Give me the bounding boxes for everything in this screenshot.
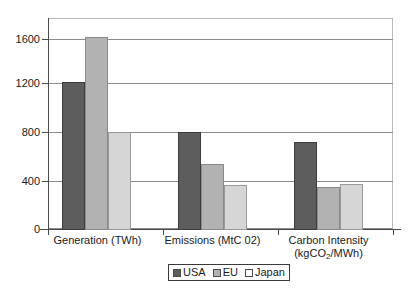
bar-chart: 1600 1200 800 400 0 Generation (TWh) Emi… (0, 0, 409, 296)
bar-emissions-japan (224, 185, 247, 230)
category-label-emissions: Emissions (MtC 02) (151, 234, 274, 247)
ci-unit-prefix: (kgCO (294, 247, 326, 259)
y-tick-1200 (42, 83, 49, 84)
category-label-emissions-line1: Emissions (MtC 02) (165, 234, 261, 246)
y-tick-400 (42, 181, 49, 182)
chart-legend: USA EU Japan (168, 264, 290, 281)
category-label-carbon-intensity-line2: (kgCO2/MWh) (267, 247, 390, 261)
bar-generation-usa (62, 82, 85, 230)
y-tick-label-1200: 1200 (16, 78, 40, 89)
y-tick-1600 (42, 39, 49, 40)
y-tick-label-1600: 1600 (16, 34, 40, 45)
legend-item-eu: EU (213, 266, 238, 279)
y-tick-label-800: 800 (22, 127, 40, 138)
x-tick-3 (393, 229, 394, 235)
bar-carbon-intensity-eu (317, 187, 340, 230)
category-label-carbon-intensity-line1: Carbon Intensity (288, 234, 368, 246)
category-label-carbon-intensity: Carbon Intensity (kgCO2/MWh) (267, 234, 390, 261)
bar-generation-eu (85, 37, 108, 230)
legend-label-usa: USA (183, 266, 206, 279)
bar-emissions-usa (178, 132, 201, 230)
legend-label-japan: Japan (255, 266, 285, 279)
ci-unit-suffix: /MWh) (330, 247, 362, 259)
category-label-generation: Generation (TWh) (36, 234, 159, 247)
ci-unit-subscript: 2 (326, 252, 330, 261)
category-label-generation-line1: Generation (TWh) (53, 234, 141, 246)
legend-item-usa: USA (173, 266, 206, 279)
legend-swatch-japan-icon (245, 269, 253, 277)
bar-carbon-intensity-usa (294, 142, 317, 230)
y-tick-label-400: 400 (22, 176, 40, 187)
legend-swatch-eu-icon (213, 269, 221, 277)
bar-generation-japan (108, 132, 131, 230)
legend-label-eu: EU (223, 266, 238, 279)
bar-emissions-eu (201, 164, 224, 230)
y-axis-line (48, 18, 49, 230)
y-tick-800 (42, 132, 49, 133)
legend-item-japan: Japan (245, 266, 285, 279)
bar-carbon-intensity-japan (340, 184, 363, 230)
legend-swatch-usa-icon (173, 269, 181, 277)
